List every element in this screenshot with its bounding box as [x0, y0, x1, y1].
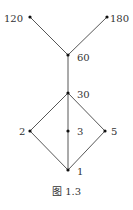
edge-2-1 [30, 131, 68, 170]
node-label-5: 5 [111, 127, 117, 137]
node-1 [66, 168, 69, 171]
node-label-1: 1 [77, 167, 83, 177]
edge-5-1 [68, 131, 105, 170]
node-2 [28, 129, 31, 132]
node-label-30: 30 [77, 90, 90, 100]
figure-caption: 图 1.3 [0, 186, 133, 198]
node-30 [66, 91, 69, 94]
node-label-120: 120 [4, 14, 23, 24]
edge-30-2 [30, 93, 68, 131]
node-60 [66, 53, 69, 56]
node-3 [66, 129, 69, 132]
node-label-2: 2 [19, 127, 25, 137]
node-label-180: 180 [110, 14, 129, 24]
node-label-60: 60 [77, 53, 90, 63]
node-180 [105, 15, 108, 18]
hasse-diagram [0, 0, 133, 210]
node-120 [28, 15, 31, 18]
node-label-3: 3 [77, 127, 83, 137]
edge-120-60 [30, 17, 68, 55]
nodes [28, 15, 108, 171]
edge-180-60 [68, 17, 107, 55]
node-5 [103, 129, 106, 132]
